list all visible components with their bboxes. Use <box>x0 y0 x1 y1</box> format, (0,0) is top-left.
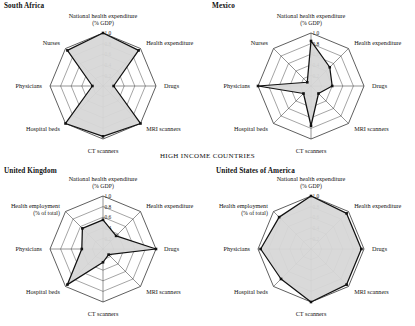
radar-category-label: Physicians <box>16 82 43 89</box>
panel-title: Mexico <box>212 2 235 10</box>
radar-category-sublabel: (% of total) <box>241 210 268 217</box>
radial-tick-label: 1.0 <box>313 30 320 36</box>
radar-data-point <box>102 32 105 35</box>
radar-category-label: Drugs <box>164 82 180 89</box>
radar-category-sublabel: (% GDP) <box>92 183 114 190</box>
radar-data-point <box>280 278 283 281</box>
radar-data-point <box>310 40 313 43</box>
radar-data-point <box>81 227 84 230</box>
radar-chart-united-states: 1.00.80.60.40.2National health expenditu… <box>208 163 415 326</box>
radar-category-sublabel: (% GDP) <box>300 20 322 27</box>
radar-category-label: Health expenditure <box>354 39 401 46</box>
radar-data-point <box>302 92 305 95</box>
radar-data-point <box>137 49 140 52</box>
radar-panel-mexico: Mexico 1.00.80.60.40.2National health ex… <box>208 0 415 163</box>
radial-tick-label: 1.0 <box>105 193 112 199</box>
radar-category-label: CT scanners <box>296 310 327 317</box>
panel-title: United States of America <box>216 167 295 175</box>
radar-data-point <box>278 216 281 219</box>
radar-data-point <box>112 85 115 88</box>
radar-category-label: Hospital beds <box>26 125 60 132</box>
radar-category-label: Health expenditure <box>354 202 401 209</box>
radar-panel-south-africa: South Africa 1.00.80.60.40.2National hea… <box>0 0 207 163</box>
radar-data-point <box>345 212 348 215</box>
radar-category-label: Health expenditure <box>146 202 193 209</box>
radar-panel-united-states: United States of America 1.00.80.60.40.2… <box>208 163 415 326</box>
radar-panel-united-kingdom: United Kingdom 1.00.80.60.40.2National h… <box>0 163 207 326</box>
section-heading: HIGH INCOME COUNTRIES <box>0 152 415 160</box>
radar-data-point <box>102 135 105 138</box>
radar-data-point <box>259 248 262 251</box>
radar-category-label: Hospital beds <box>234 125 268 132</box>
panel-title: United Kingdom <box>4 167 57 175</box>
radar-chart-figure: South Africa 1.00.80.60.40.2National hea… <box>0 0 415 326</box>
radar-chart-mexico: 1.00.80.60.40.2National health expenditu… <box>208 0 415 163</box>
radar-category-label: Nurses <box>251 39 269 46</box>
radar-data-point <box>102 261 105 264</box>
radar-category-sublabel: (% GDP) <box>300 183 322 190</box>
radar-data-point <box>310 301 313 304</box>
radar-series-area <box>66 33 141 136</box>
panel-title: South Africa <box>4 2 44 10</box>
radar-data-point <box>328 66 331 69</box>
radar-category-label: Physicians <box>16 245 43 252</box>
radar-chart-united-kingdom: 1.00.80.60.40.2National health expenditu… <box>0 163 207 326</box>
radar-category-label: MRI scanners <box>354 125 389 132</box>
radar-category-sublabel: (% GDP) <box>92 20 114 27</box>
radar-data-point <box>64 122 67 125</box>
radar-series-area <box>67 220 156 285</box>
radar-data-point <box>360 248 363 251</box>
radar-category-label: Physicians <box>224 82 251 89</box>
radar-data-point <box>306 81 309 84</box>
radar-data-point <box>91 85 94 88</box>
radar-category-label: Health employment <box>11 202 60 209</box>
radar-chart-south-africa: 1.00.80.60.40.2National health expenditu… <box>0 0 207 163</box>
radar-data-point <box>155 248 158 251</box>
radar-category-label: MRI scanners <box>146 288 181 295</box>
radar-data-point <box>257 85 260 88</box>
radar-category-label: MRI scanners <box>354 288 389 295</box>
radar-category-label: Drugs <box>372 245 388 252</box>
radar-data-point <box>310 124 313 127</box>
radar-data-point <box>115 235 118 238</box>
radar-category-label: MRI scanners <box>146 125 181 132</box>
radial-tick-label: 0.6 <box>105 214 112 220</box>
radar-category-label: National health expenditure <box>69 12 138 19</box>
radial-tick-label: 0.8 <box>105 204 112 210</box>
radar-data-point <box>310 195 313 198</box>
radar-data-point <box>107 253 110 256</box>
radar-data-point <box>81 248 84 251</box>
radar-category-sublabel: (% of total) <box>33 210 60 217</box>
radar-category-label: National health expenditure <box>277 175 346 182</box>
radar-category-label: Drugs <box>372 82 388 89</box>
radar-category-label: Nurses <box>43 39 61 46</box>
radar-category-label: National health expenditure <box>69 175 138 182</box>
radar-data-point <box>139 122 142 125</box>
radar-data-point <box>102 219 105 222</box>
radar-category-label: Physicians <box>224 245 251 252</box>
radar-category-label: Hospital beds <box>234 288 268 295</box>
radar-category-label: Drugs <box>164 245 180 252</box>
radar-data-point <box>66 49 69 52</box>
radar-category-label: Hospital beds <box>26 288 60 295</box>
radar-data-point <box>317 92 320 95</box>
radar-data-point <box>331 85 334 88</box>
radar-category-label: National health expenditure <box>277 12 346 19</box>
radar-category-label: CT scanners <box>88 310 119 317</box>
radar-series-area <box>261 196 362 302</box>
radar-data-point <box>345 283 348 286</box>
radar-data-point <box>66 283 69 286</box>
radar-category-label: Health expenditure <box>146 39 193 46</box>
radar-category-label: Health employment <box>219 202 268 209</box>
